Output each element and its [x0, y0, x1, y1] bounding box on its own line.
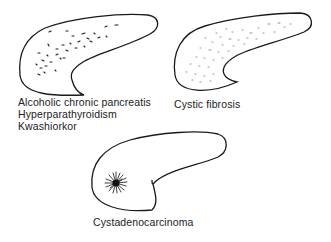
sunburst-calcification: [105, 172, 127, 193]
label-hyperparathyroidism: Hyperparathyroidism: [18, 108, 117, 120]
label-cystic-fibrosis: Cystic fibrosis: [174, 98, 240, 110]
fine-calcifications: [186, 23, 291, 82]
label-cystadenocarcinoma: Cystadenocarcinoma: [93, 216, 193, 228]
label-kwashiorkor: Kwashiorkor: [18, 120, 77, 132]
pancreas-outline-chronic-pancreatitis: [20, 15, 158, 96]
label-alcoholic-chronic-pancreatitis: Alcoholic chronic pancreatis: [18, 96, 151, 108]
pancreas-outline-cystadenocarcinoma: [92, 132, 226, 211]
coarse-calcifications: [36, 25, 118, 75]
pancreas-outline-cystic-fibrosis: [174, 13, 311, 90]
